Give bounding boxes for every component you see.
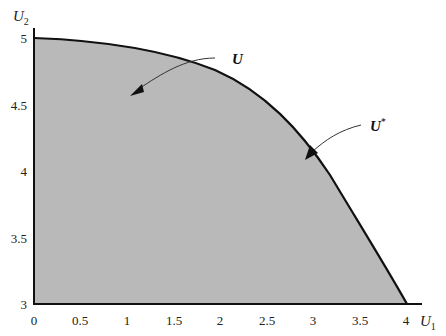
x-axis-label: U1 <box>420 313 436 332</box>
svg-text:1.5: 1.5 <box>166 313 182 328</box>
annotation-ustar: U* <box>305 116 386 160</box>
svg-text:U*: U* <box>370 116 386 134</box>
svg-text:2.5: 2.5 <box>259 313 275 328</box>
svg-text:U: U <box>232 51 244 67</box>
svg-text:3: 3 <box>310 313 317 328</box>
svg-text:0: 0 <box>31 313 38 328</box>
svg-text:4: 4 <box>21 164 28 179</box>
svg-text:4: 4 <box>403 313 410 328</box>
y-axis-label: U2 <box>13 8 29 27</box>
svg-text:3.5: 3.5 <box>352 313 368 328</box>
svg-text:3: 3 <box>21 297 28 312</box>
feasible-region <box>34 38 407 304</box>
svg-text:1: 1 <box>124 313 131 328</box>
svg-text:2: 2 <box>217 313 224 328</box>
y-tick-labels: 5 4.5 4 3.5 3 <box>11 31 28 312</box>
chart: 5 4.5 4 3.5 3 0 0.5 1 1.5 2 2.5 3 3.5 4 … <box>0 0 446 336</box>
svg-text:3.5: 3.5 <box>11 231 27 246</box>
svg-text:5: 5 <box>21 31 28 46</box>
svg-text:0.5: 0.5 <box>72 313 88 328</box>
x-tick-labels: 0 0.5 1 1.5 2 2.5 3 3.5 4 <box>31 313 410 328</box>
svg-text:4.5: 4.5 <box>11 98 27 113</box>
